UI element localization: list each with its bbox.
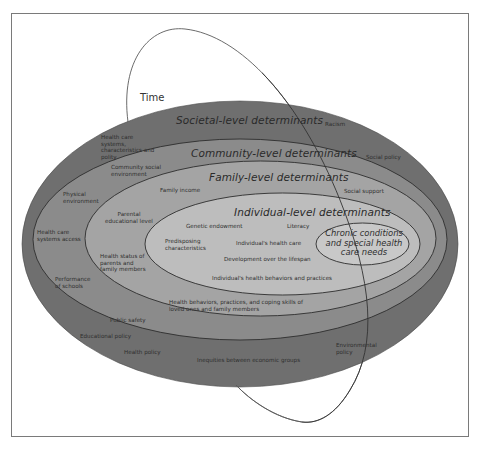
label-individuals-health-behaviors: Individual's health behaviors and practi… <box>212 275 332 282</box>
label-health-behaviors-of-loved-ones: Health behaviors, practices, and coping … <box>169 299 319 312</box>
label-educational-policy: Educational policy <box>80 333 131 340</box>
individual-level-title: Individual-level determinants <box>234 206 391 218</box>
label-predisposing-characteristics: Predisposing characteristics <box>165 238 213 251</box>
label-literacy: Literacy <box>287 223 309 230</box>
label-family-income: Family income <box>160 187 200 194</box>
community-level-title: Community-level determinants <box>191 147 357 159</box>
label-environmental-policy: Environmental policy <box>336 342 378 355</box>
label-physical-environment: Physical environment <box>63 191 103 204</box>
label-inequities-between-economic-groups: Inequities between economic groups <box>197 357 300 364</box>
label-social-policy: Social policy <box>366 154 401 161</box>
label-health-care-systems-policy: Health care systems, characteristics and… <box>101 134 156 160</box>
label-performance-of-schools: Performance of schools <box>55 276 93 289</box>
label-racism: Racism <box>325 121 345 128</box>
label-genetic-endowment: Genetic endowment <box>186 223 243 230</box>
societal-level-title: Societal-level determinants <box>176 114 323 126</box>
label-health-status-of-parents: Health status of parents and family memb… <box>100 253 152 273</box>
family-level-title: Family-level determinants <box>209 171 348 183</box>
label-health-policy: Health policy <box>124 349 161 356</box>
label-parental-educational-level: Parental educational level <box>105 211 153 224</box>
label-health-care-systems-access: Health care systems access <box>37 229 81 242</box>
label-social-support: Social support <box>344 188 384 195</box>
core-title: Chronic conditions and special health ca… <box>318 229 410 258</box>
time-ellipse-lower-overlay <box>236 385 302 422</box>
label-public-safety: Public safety <box>110 317 146 324</box>
label-development-over-lifespan: Development over the lifespan <box>224 256 311 263</box>
label-individuals-health-care: Individual's health care <box>236 240 301 247</box>
label-community-social-environment: Community social environment <box>111 164 163 177</box>
time-label: Time <box>140 92 164 103</box>
